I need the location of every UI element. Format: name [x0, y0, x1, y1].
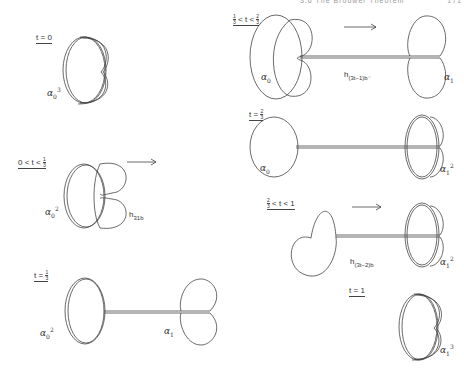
fraction: 13	[233, 14, 236, 25]
denominator: 3	[256, 20, 259, 25]
subscript: 1	[446, 169, 450, 176]
subscript: 1	[446, 262, 450, 269]
label-alpha1-t-third: α1	[164, 326, 174, 338]
condition-0-lt-t-lt-third: 0 < t < 13	[18, 157, 46, 168]
label-h-3t-2-b: h(3t−2)b	[350, 257, 374, 268]
subscript: 0	[266, 168, 270, 175]
condition-value: 1	[360, 286, 364, 295]
right-arrow	[127, 159, 156, 165]
subscript: 0	[51, 212, 55, 219]
denominator: 3	[43, 163, 46, 168]
condition-third-lt-t-lt-twothirds: 13 < t < 23	[233, 14, 259, 25]
superscript: 2	[55, 205, 59, 212]
condition-op: <	[36, 158, 41, 167]
denominator: 3	[45, 276, 48, 281]
condition-op: =	[353, 286, 358, 295]
loop-alpha0-cubed	[63, 37, 108, 104]
fraction: 23	[256, 14, 259, 25]
condition-t-equals-third: t = 13	[34, 270, 48, 281]
condition-op: <	[249, 15, 254, 24]
subscript: 0	[46, 333, 50, 340]
label-alpha0-squared-t-third: α02	[40, 326, 54, 340]
superscript: 3	[450, 343, 454, 350]
condition-t-equals-1: t = 1	[349, 286, 365, 295]
subscript: 1	[446, 350, 450, 357]
label-alpha0-t-twothirds: α0	[260, 163, 270, 175]
condition-op: =	[40, 33, 45, 42]
loop-alpha0-squared-tube-alpha1	[65, 278, 217, 345]
condition-lower: 0	[18, 158, 22, 167]
label-alpha1-squared: α12	[440, 255, 454, 269]
condition-op: =	[253, 110, 258, 119]
label-alpha1-squared-t-twothirds: α12	[440, 162, 454, 176]
condition-var: t	[32, 158, 34, 167]
fraction: 23	[267, 198, 270, 209]
superscript: 2	[450, 162, 454, 169]
condition-t-equals-twothirds: t = 23	[249, 109, 263, 120]
condition-upper: 1	[290, 199, 294, 208]
subscript: 1	[450, 77, 454, 84]
denominator: 3	[267, 204, 270, 209]
label-alpha1-cubed: α13	[440, 343, 454, 357]
condition-var: t	[349, 286, 351, 295]
condition-var: t	[36, 33, 38, 42]
condition-op: <	[25, 158, 30, 167]
loop-alpha0-tube-alpha1-squared	[250, 115, 443, 179]
superscript: 2	[50, 326, 54, 333]
right-arrow	[352, 204, 381, 210]
label-alpha1: α1	[444, 72, 454, 84]
fraction: 13	[43, 157, 46, 168]
condition-var: t	[245, 15, 247, 24]
condition-var: t	[249, 110, 251, 119]
condition-twothirds-lt-t-lt-1: 23 < t < 1	[267, 198, 295, 209]
condition-var: t	[279, 199, 281, 208]
label-h31b: h31b	[129, 210, 143, 221]
condition-op: <	[238, 15, 243, 24]
denominator: 3	[233, 20, 236, 25]
label-h-3t-1-b-inverse: h(3t−1)b⁻	[344, 70, 371, 81]
condition-op: <	[272, 199, 277, 208]
subscript: (3t−2)b	[354, 262, 373, 268]
condition-value: 0	[47, 33, 51, 42]
superscript: 2	[450, 255, 454, 262]
subscript: 31b	[133, 215, 143, 221]
label-alpha0: α0	[261, 72, 271, 84]
condition-op: =	[38, 271, 43, 280]
fraction: 23	[260, 109, 263, 120]
fraction: 13	[45, 270, 48, 281]
subscript: (3t−1)b⁻	[348, 75, 370, 81]
right-arrow	[344, 24, 376, 30]
subscript: 0	[267, 77, 271, 84]
label-alpha0-squared: α02	[45, 205, 59, 219]
homotopy-figure	[0, 0, 464, 370]
loop-alpha0-squared-with-h31b	[64, 163, 126, 228]
subscript: 0	[53, 93, 57, 100]
condition-t-equals-0: t = 0	[36, 33, 52, 42]
loop-alpha0-tube-alpha1-with-h	[250, 15, 446, 99]
condition-var: t	[34, 271, 36, 280]
loop-alpha1-cubed	[399, 294, 441, 360]
denominator: 3	[260, 115, 263, 120]
condition-op: <	[283, 199, 288, 208]
label-alpha0-cubed: α03	[47, 86, 61, 100]
superscript: 3	[57, 86, 61, 93]
subscript: 1	[170, 331, 174, 338]
